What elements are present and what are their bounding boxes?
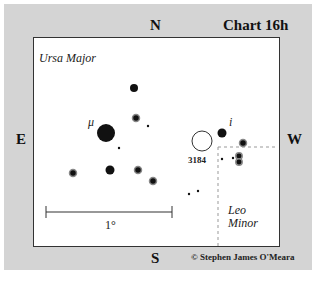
star: [147, 125, 149, 127]
star: [197, 190, 199, 192]
star: [188, 193, 190, 195]
star: [240, 140, 247, 147]
star-mu: [97, 124, 115, 142]
star: [150, 178, 157, 185]
star: [118, 147, 120, 149]
star: [130, 84, 138, 92]
star: [236, 159, 242, 165]
star: [133, 115, 140, 122]
star-map: [0, 0, 315, 281]
star: [106, 166, 115, 175]
star: [70, 170, 77, 177]
galaxy-ngc3184: [192, 131, 212, 151]
star: [135, 167, 142, 174]
star: [232, 157, 234, 159]
star: [221, 158, 223, 160]
star-i: [218, 129, 227, 138]
